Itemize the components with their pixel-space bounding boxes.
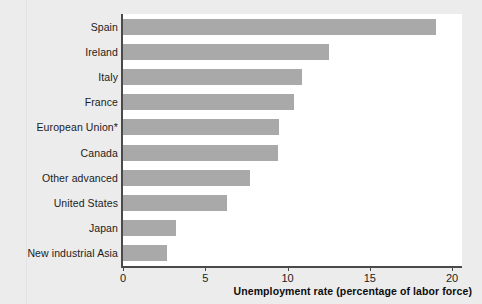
x-tick-label: 15 (364, 272, 376, 284)
bar (123, 69, 302, 85)
x-tick (123, 266, 124, 271)
bar (123, 245, 167, 261)
category-label: United States (54, 197, 118, 209)
category-label: Canada (81, 147, 118, 159)
bar (123, 44, 329, 60)
category-label: Japan (89, 222, 118, 234)
bar-row: New industrial Asia (0, 241, 482, 266)
bar-row: France (0, 90, 482, 115)
x-tick-label: 10 (281, 272, 293, 284)
category-label: European Union* (37, 121, 118, 133)
x-tick (205, 266, 206, 271)
x-tick-label: 20 (446, 272, 458, 284)
x-tick-label: 0 (120, 272, 126, 284)
bar-row: Canada (0, 140, 482, 165)
category-label: Other advanced (42, 172, 118, 184)
bar (123, 170, 250, 186)
bar (123, 195, 227, 211)
x-tick (370, 266, 371, 271)
x-tick (452, 266, 453, 271)
bar-row: Other advanced (0, 165, 482, 190)
chart-figure: SpainIrelandItalyFranceEuropean Union*Ca… (0, 0, 482, 304)
bar-row: Ireland (0, 39, 482, 64)
category-label: Italy (98, 71, 118, 83)
bar-rows: SpainIrelandItalyFranceEuropean Union*Ca… (0, 14, 482, 266)
bar (123, 94, 294, 110)
bar-row: European Union* (0, 115, 482, 140)
bar-row: Japan (0, 216, 482, 241)
x-axis-line (121, 266, 462, 268)
category-label: France (85, 96, 118, 108)
bar (123, 220, 176, 236)
bar (123, 145, 278, 161)
bar-row: Spain (0, 14, 482, 39)
category-label: New industrial Asia (27, 247, 118, 259)
bar (123, 19, 436, 35)
category-label: Spain (91, 21, 118, 33)
x-tick-label: 5 (202, 272, 208, 284)
bar (123, 119, 279, 135)
category-label: Ireland (85, 46, 118, 58)
x-axis-title: Unemployment rate (percentage of labor f… (0, 285, 472, 297)
bar-row: Italy (0, 64, 482, 89)
x-tick (288, 266, 289, 271)
bar-row: United States (0, 190, 482, 215)
